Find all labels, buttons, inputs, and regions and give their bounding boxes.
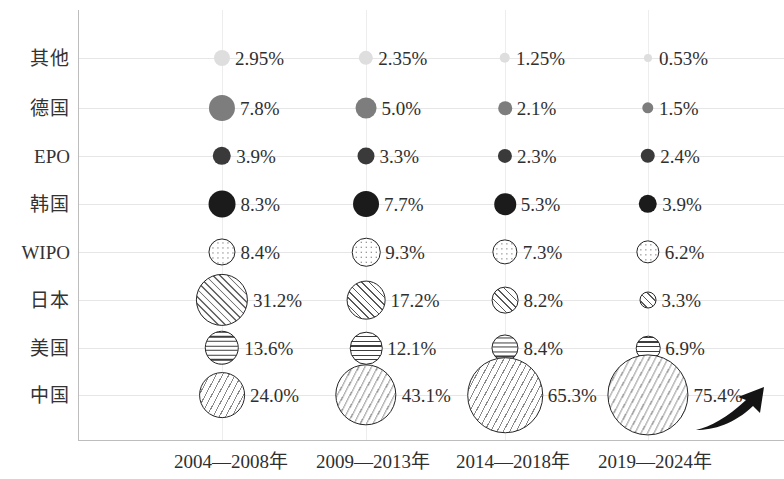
bubble-epo-period-2 [358, 148, 375, 165]
y-axis-label-other: 其他 [0, 49, 70, 68]
value-label-japan-period-2: 17.2% [390, 291, 439, 310]
bubble-japan-period-3 [492, 287, 519, 314]
bubble-wipo-period-1 [208, 238, 235, 265]
value-label-other-period-1: 2.95% [235, 49, 284, 68]
value-label-china-period-3: 65.3% [548, 386, 597, 405]
value-label-germany-period-3: 2.1% [517, 99, 557, 118]
bubble-germany-period-1 [209, 95, 235, 121]
value-label-wipo-period-1: 8.4% [241, 243, 281, 262]
value-label-germany-period-4: 1.5% [659, 99, 699, 118]
x-axis-label-2004-2008: 2004—2008年 [174, 452, 288, 472]
value-label-usa-period-1: 13.6% [244, 339, 293, 358]
value-label-korea-period-4: 3.9% [662, 195, 702, 214]
value-label-germany-period-2: 5.0% [381, 99, 421, 118]
bubble-japan-period-4 [640, 292, 657, 309]
value-label-other-period-4: 0.53% [659, 49, 708, 68]
value-label-japan-period-1: 31.2% [253, 291, 302, 310]
bubble-korea-period-1 [209, 191, 236, 218]
value-label-epo-period-2: 3.3% [379, 147, 419, 166]
y-axis-label-usa: 美国 [0, 339, 70, 358]
value-label-usa-period-3: 8.4% [524, 339, 564, 358]
value-label-epo-period-1: 3.9% [236, 147, 276, 166]
x-axis-label-2009-2013: 2009—2013年 [316, 452, 430, 472]
value-label-usa-period-4: 6.9% [665, 339, 705, 358]
value-label-korea-period-2: 7.7% [384, 195, 424, 214]
x-axis-label-2014-2018: 2014—2018年 [456, 452, 570, 472]
value-label-other-period-3: 1.25% [516, 49, 565, 68]
value-label-korea-period-1: 8.3% [240, 195, 280, 214]
value-label-wipo-period-4: 6.2% [665, 243, 705, 262]
value-label-japan-period-4: 3.3% [661, 291, 701, 310]
bubble-other-period-1 [214, 50, 230, 66]
bubble-japan-period-2 [347, 281, 386, 320]
bubble-japan-period-1 [196, 274, 248, 326]
x-axis-label-2019-2024: 2019—2024年 [598, 452, 712, 472]
y-axis-label-epo: EPO [0, 147, 70, 166]
growth-arrow-icon [694, 384, 772, 434]
bubble-usa-period-2 [350, 332, 383, 365]
y-axis-label-wipo: WIPO [0, 243, 70, 262]
value-label-korea-period-3: 5.3% [521, 195, 561, 214]
y-axis-label-germany: 德国 [0, 99, 70, 118]
bubble-china-period-1 [199, 372, 245, 418]
bubble-wipo-period-2 [352, 238, 381, 267]
value-label-usa-period-2: 12.1% [387, 339, 436, 358]
bubble-korea-period-2 [353, 191, 379, 217]
value-label-epo-period-3: 2.3% [517, 147, 557, 166]
y-axis-label-japan: 日本 [0, 291, 70, 310]
bubble-other-period-4 [644, 54, 652, 62]
bubble-germany-period-3 [498, 101, 512, 115]
value-label-other-period-2: 2.35% [378, 49, 427, 68]
bubble-china-period-4 [607, 354, 688, 435]
value-label-china-period-2: 43.1% [402, 386, 451, 405]
bubble-chart: 其他 德国 EPO 韩国 WIPO 日本 美国 中国 2004—2008年 20… [0, 0, 784, 479]
bubble-china-period-3 [467, 357, 543, 433]
x-axis-line [78, 440, 784, 441]
value-label-japan-period-3: 8.2% [523, 291, 563, 310]
value-label-wipo-period-3: 7.3% [523, 243, 563, 262]
value-label-china-period-1: 24.0% [250, 386, 299, 405]
value-label-germany-period-1: 7.8% [240, 99, 280, 118]
value-label-wipo-period-2: 9.3% [385, 243, 425, 262]
bubble-korea-period-3 [494, 193, 516, 215]
y-axis-label-china: 中国 [0, 386, 70, 405]
bubble-germany-period-2 [356, 98, 377, 119]
value-label-epo-period-4: 2.4% [660, 147, 700, 166]
y-axis-label-korea: 韩国 [0, 195, 70, 214]
